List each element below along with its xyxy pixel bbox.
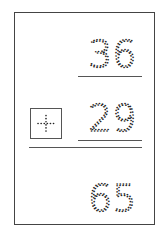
svg-text:65: 65 [88,178,136,214]
plus-icon [31,109,61,138]
bottom-number: 29 [86,98,136,134]
svg-text:36: 36 [88,34,136,70]
sum-line [29,147,142,148]
top-number: 36 [86,34,136,70]
answer-number: 65 [86,178,136,214]
operator-box [30,108,62,139]
svg-text:29: 29 [88,98,136,134]
bottom-underline [78,140,142,141]
top-underline [78,76,142,77]
